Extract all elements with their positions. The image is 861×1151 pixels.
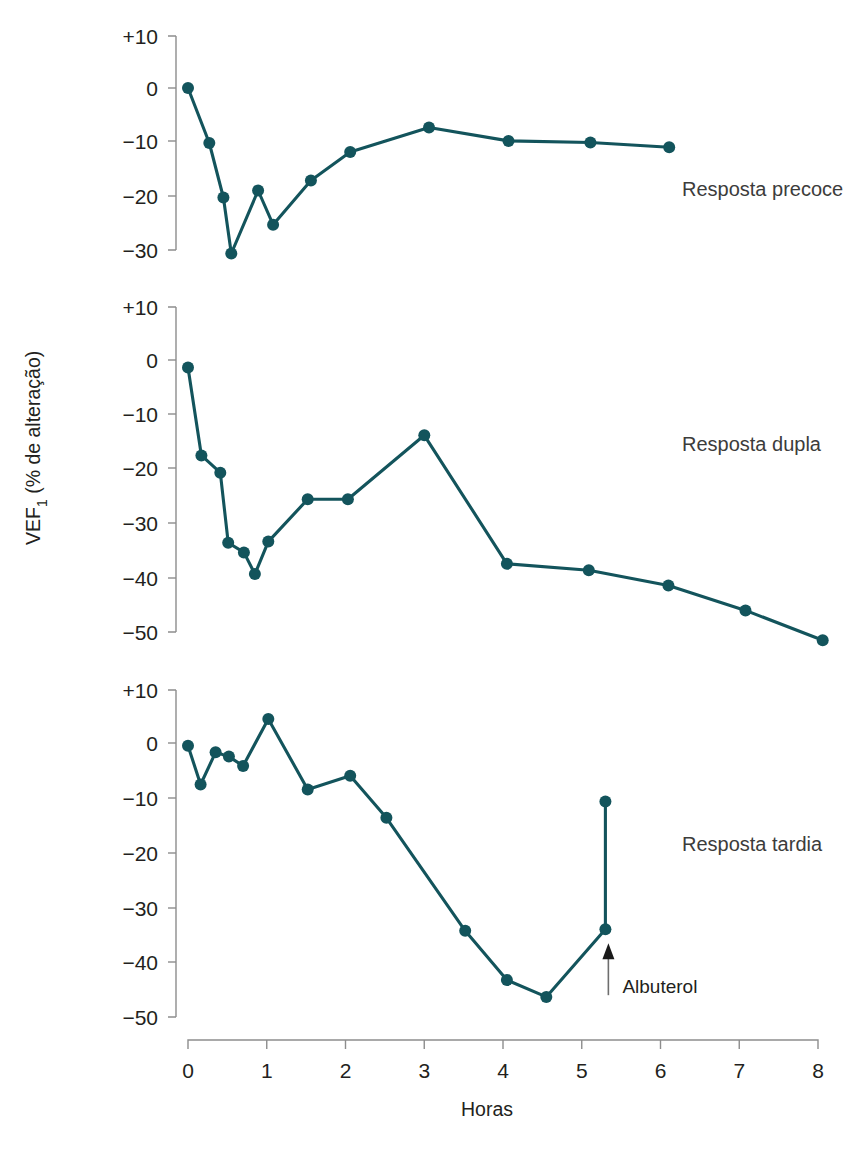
panel1-ytick-4: −30 [122, 239, 158, 262]
data-point [195, 779, 207, 791]
albuterol-annotation-label: Albuterol [622, 976, 697, 997]
y-axis-title: VEF1 (% de alteração) [22, 351, 50, 545]
panel3-label: Resposta tardia [682, 833, 823, 855]
data-point [217, 192, 229, 204]
data-point [501, 974, 513, 986]
data-point [540, 991, 552, 1003]
panel1-label: Resposta precoce [682, 178, 843, 200]
panel2-ytick-1: 0 [146, 349, 158, 372]
x-axis-tick-label: 8 [812, 1059, 824, 1082]
data-point [423, 122, 435, 134]
panel3-ytick-3: −20 [122, 842, 158, 865]
data-point [583, 564, 595, 576]
panel1-ytick-2: −10 [122, 130, 158, 153]
data-point [599, 923, 611, 935]
data-point [262, 536, 274, 548]
x-axis-title: Horas [461, 1098, 513, 1120]
data-point [342, 493, 354, 505]
panel2-ytick-3: −20 [122, 457, 158, 480]
data-point [380, 812, 392, 824]
data-point [817, 634, 829, 646]
x-axis-tick-label: 6 [655, 1059, 667, 1082]
x-axis-tick-label: 2 [340, 1059, 352, 1082]
panel2-axis-line [168, 307, 176, 632]
panel3-ytick-4: −30 [122, 897, 158, 920]
x-axis-tick-label: 3 [418, 1059, 430, 1082]
panel3-ytick-0: +10 [122, 679, 158, 702]
data-point [740, 604, 752, 616]
data-point [214, 467, 226, 479]
chart-figure: VEF1 (% de alteração) +10 0 −10 −20 −30 … [0, 0, 861, 1151]
x-axis: 012345678 Horas [182, 1040, 824, 1120]
data-point [182, 362, 194, 374]
data-point [584, 137, 596, 149]
panel2-series-points [182, 362, 829, 647]
panel2-y-tick-labels: +10 0 −10 −20 −30 −40 −50 [122, 296, 158, 644]
panel-resposta-dupla: +10 0 −10 −20 −30 −40 −50 Resposta dupla [122, 296, 828, 646]
x-axis-tick-labels: 012345678 [182, 1059, 824, 1082]
panel1-ytick-0: +10 [122, 25, 158, 48]
panel2-y-ticks [168, 360, 176, 578]
data-point [262, 713, 274, 725]
triphasic-response-chart: VEF1 (% de alteração) +10 0 −10 −20 −30 … [0, 0, 861, 1151]
data-point [237, 760, 249, 772]
panel-resposta-tardia: +10 0 −10 −20 −30 −40 −50 Resposta tardi… [122, 679, 823, 1029]
data-point [249, 568, 261, 580]
panel2-ytick-4: −30 [122, 512, 158, 535]
y-axis-title-sub: 1 [34, 499, 50, 507]
data-point [195, 449, 207, 461]
data-point [223, 751, 235, 763]
data-point [222, 537, 234, 549]
panel3-y-ticks [168, 743, 176, 962]
x-axis-tick-label: 4 [497, 1059, 509, 1082]
panel2-ytick-5: −40 [122, 567, 158, 590]
panel1-axis-line [168, 36, 176, 250]
data-point [663, 141, 675, 153]
data-point [302, 493, 314, 505]
data-point [225, 248, 237, 260]
panel2-label: Resposta dupla [682, 433, 822, 455]
panel2-ytick-6: −50 [122, 621, 158, 644]
panel-resposta-precoce: +10 0 −10 −20 −30 Resposta precoce [122, 25, 843, 262]
data-point [503, 135, 515, 147]
y-axis-title-main: VEF [22, 507, 44, 545]
data-point [344, 770, 356, 782]
x-axis-ticks [267, 1040, 740, 1049]
panel2-series-line [188, 368, 823, 641]
data-point-post-albuterol [599, 795, 611, 807]
panel3-ytick-5: −40 [122, 951, 158, 974]
panel1-series-points [182, 82, 675, 260]
data-point [344, 146, 356, 158]
x-axis-tick-label: 5 [576, 1059, 588, 1082]
panel3-ytick-1: 0 [146, 732, 158, 755]
panel3-y-tick-labels: +10 0 −10 −20 −30 −40 −50 [122, 679, 158, 1029]
panel1-series-line [188, 88, 669, 254]
data-point [182, 740, 194, 752]
data-point [267, 219, 279, 231]
x-axis-tick-label: 1 [261, 1059, 273, 1082]
x-axis-tick-label: 0 [182, 1059, 194, 1082]
svg-text:VEF1 (% de alteração): VEF1 (% de alteração) [22, 351, 50, 545]
data-point [662, 580, 674, 592]
panel1-ytick-1: 0 [146, 77, 158, 100]
panel1-y-ticks [168, 88, 176, 196]
panel1-ytick-3: −20 [122, 185, 158, 208]
x-axis-tick-label: 7 [733, 1059, 745, 1082]
data-point [182, 82, 194, 94]
data-point [501, 558, 513, 570]
data-point [210, 746, 222, 758]
panel3-series-line [188, 719, 605, 997]
data-point [305, 174, 317, 186]
data-point [203, 137, 215, 149]
data-point [238, 546, 250, 558]
data-point [302, 783, 314, 795]
data-point [252, 185, 264, 197]
data-point [418, 429, 430, 441]
data-point [459, 925, 471, 937]
y-axis-title-rest: (% de alteração) [22, 351, 44, 500]
panel2-ytick-2: −10 [122, 403, 158, 426]
panel1-y-tick-labels: +10 0 −10 −20 −30 [122, 25, 158, 262]
panel2-ytick-0: +10 [122, 296, 158, 319]
albuterol-annotation: Albuterol [602, 943, 697, 997]
panel3-ytick-6: −50 [122, 1006, 158, 1029]
